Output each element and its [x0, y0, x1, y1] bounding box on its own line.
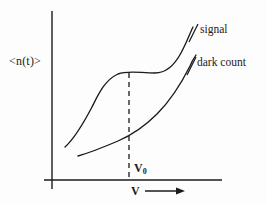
threshold-label-subscript: 0: [143, 167, 147, 176]
dark-count-label-leader: [187, 57, 196, 75]
dark-count-curve-label: dark count: [197, 57, 246, 69]
x-axis-label: V: [131, 185, 140, 197]
y-axis-label: <n(t)>: [9, 55, 41, 67]
dark-count-curve: [78, 55, 196, 156]
threshold-label-symbol: V: [134, 161, 143, 175]
figure-container: <n(t)> signal dark count V0 V: [0, 0, 267, 204]
x-axis-arrow-head: [176, 188, 185, 195]
threshold-label: V0: [134, 162, 147, 176]
signal-curve-label: signal: [200, 24, 227, 36]
